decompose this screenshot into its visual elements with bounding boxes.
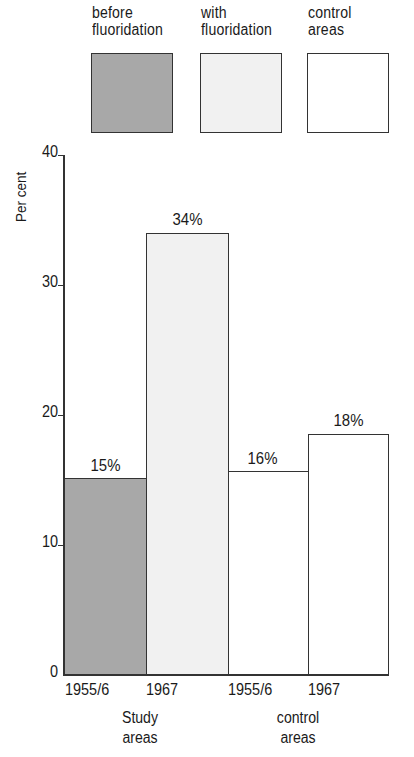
bar-value-label: 34% (151, 210, 224, 230)
group-label-study: Study areas (105, 708, 175, 748)
bar-study-1967 (146, 233, 229, 675)
y-tick-label-20: 20 (33, 402, 59, 422)
y-tick-40 (58, 155, 64, 156)
bar-value-label: 18% (313, 411, 384, 431)
bar-study-1955 (64, 478, 147, 675)
y-tick-30 (58, 285, 64, 286)
x-category-label: 1955/6 (65, 680, 109, 700)
y-tick-label-0: 0 (33, 662, 59, 682)
x-category-label: 1955/6 (228, 680, 272, 700)
x-category-label: 1967 (146, 680, 178, 700)
bar-value-label: 15% (69, 456, 142, 476)
y-tick-label-40: 40 (33, 142, 59, 162)
legend-swatch-before (91, 53, 173, 133)
bar-control-1955 (228, 471, 309, 675)
y-tick-label-30: 30 (33, 272, 59, 292)
group-label-control: control areas (263, 708, 333, 748)
bar-control-1967 (308, 434, 389, 675)
legend-swatch-with (200, 53, 282, 133)
x-category-label: 1967 (308, 680, 340, 700)
y-tick-20 (58, 415, 64, 416)
legend-label-with: with fluoridation (201, 4, 272, 38)
legend-label-before: before fluoridation (92, 4, 163, 38)
bar-value-label: 16% (227, 449, 298, 469)
y-tick-label-10: 10 (33, 532, 59, 552)
legend-swatch-control (307, 53, 389, 133)
legend-label-control: control areas (308, 4, 352, 38)
y-axis-label: Per cent (12, 172, 29, 222)
